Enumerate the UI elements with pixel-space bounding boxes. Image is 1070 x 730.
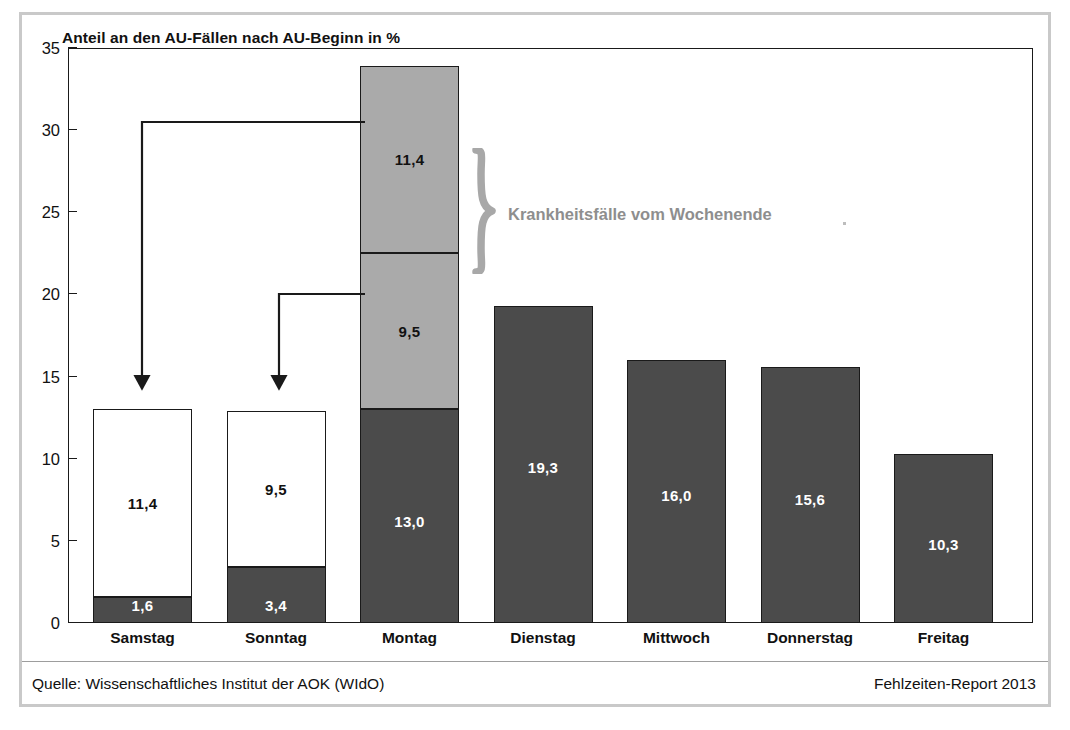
- x-axis-label-donnerstag: Donnerstag: [741, 629, 880, 647]
- bar-segment: 15,6: [761, 367, 860, 623]
- y-tick-mark: [68, 376, 77, 377]
- x-axis-label-samstag: Samstag: [73, 629, 212, 647]
- x-axis-label-freitag: Freitag: [874, 629, 1013, 647]
- y-tick-mark: [68, 540, 77, 541]
- x-axis-label-montag: Montag: [340, 629, 479, 647]
- bar-value-label: 13,0: [394, 513, 424, 530]
- x-axis-label-mittwoch: Mittwoch: [607, 629, 746, 647]
- x-axis-label-dienstag: Dienstag: [474, 629, 613, 647]
- bar-value-label: 11,4: [128, 495, 158, 512]
- y-tick-label: 15: [20, 367, 60, 386]
- bar-value-label: 10,3: [928, 536, 958, 553]
- bar-value-label: 3,4: [265, 597, 287, 614]
- y-tick-label: 5: [20, 531, 60, 550]
- y-tick-mark: [68, 293, 77, 294]
- annotation-label: Krankheitsfälle vom Wochenende: [508, 205, 772, 224]
- y-tick-mark: [68, 129, 77, 130]
- bar-value-label: 11,4: [395, 151, 425, 168]
- bar-segment: 11,4: [360, 66, 459, 253]
- y-tick-label: 10: [20, 449, 60, 468]
- bar-value-label: 19,3: [528, 459, 558, 476]
- bar-segment: 9,5: [227, 411, 326, 567]
- y-tick-mark: [68, 458, 77, 459]
- bar-segment: 1,6: [93, 597, 192, 623]
- bar-segment: 13,0: [360, 409, 459, 623]
- footer-divider: [22, 661, 1048, 662]
- chart-title: Anteil an den AU-Fällen nach AU-Beginn i…: [62, 29, 400, 47]
- bar-value-label: 15,6: [795, 491, 825, 508]
- y-tick-mark: [68, 211, 77, 212]
- y-tick-label: 0: [20, 614, 60, 633]
- y-tick-mark: [68, 622, 77, 623]
- footer-source: Quelle: Wissenschaftliches Institut der …: [32, 675, 384, 693]
- bar-value-label: 16,0: [661, 487, 691, 504]
- bar-segment: 16,0: [627, 360, 726, 623]
- bar-value-label: 9,5: [265, 481, 287, 498]
- brace-icon: [470, 148, 496, 274]
- x-axis-label-sonntag: Sonntag: [207, 629, 346, 647]
- bar-segment: 10,3: [894, 454, 993, 623]
- bar-segment: 3,4: [227, 567, 326, 623]
- bar-segment: 9,5: [360, 253, 459, 409]
- annotation-dot: [843, 222, 846, 225]
- bar-segment: 19,3: [494, 306, 593, 623]
- y-tick-label: 35: [20, 39, 60, 58]
- y-tick-label: 20: [20, 285, 60, 304]
- y-tick-mark: [68, 47, 77, 48]
- y-tick-label: 30: [20, 121, 60, 140]
- footer-report: Fehlzeiten-Report 2013: [874, 675, 1036, 693]
- bar-segment: 11,4: [93, 409, 192, 596]
- bar-value-label: 9,5: [399, 323, 421, 340]
- y-tick-label: 25: [20, 203, 60, 222]
- bar-value-label: 1,6: [132, 597, 154, 614]
